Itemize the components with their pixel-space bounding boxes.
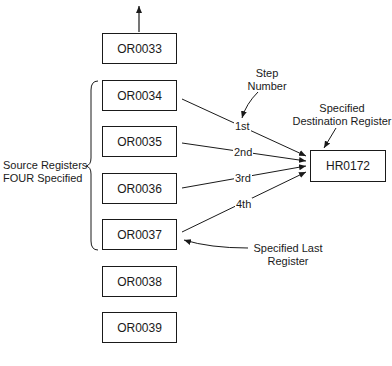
step-label-4: 4th	[235, 198, 252, 210]
source-registers-annotation: Source Registers FOUR Specified	[3, 159, 87, 185]
annotation-line: Destination Register	[292, 115, 392, 128]
step-number-pointer	[242, 92, 258, 118]
register-box-or0037: OR0037	[102, 219, 177, 250]
annotation-line: Register	[248, 255, 328, 268]
register-label: OR0034	[117, 89, 162, 103]
step-label-2: 2nd	[233, 146, 253, 158]
source-brace	[86, 81, 98, 250]
register-box-or0038: OR0038	[102, 266, 177, 297]
annotation-line: FOUR Specified	[3, 172, 87, 185]
register-label: OR0039	[117, 321, 162, 335]
register-label: OR0037	[117, 228, 162, 242]
register-label: OR0033	[117, 42, 162, 56]
annotation-line: Specified Last	[248, 242, 328, 255]
last-register-annotation: Specified Last Register	[248, 242, 328, 268]
last-register-pointer	[184, 240, 248, 248]
step-number-annotation: Step Number	[240, 67, 294, 93]
destination-register-box: HR0172	[310, 150, 386, 182]
register-label: OR0038	[117, 275, 162, 289]
register-box-or0039: OR0039	[102, 312, 177, 343]
destination-annotation: Specified Destination Register	[292, 102, 392, 128]
step-label-1: 1st	[234, 120, 251, 132]
register-transfer-diagram: OR0033 OR0034 OR0035 OR0036 OR0037 OR003…	[0, 0, 392, 366]
destination-register-label: HR0172	[326, 159, 370, 173]
register-box-or0034: OR0034	[102, 80, 177, 111]
annotation-line: Specified	[292, 102, 392, 115]
register-box-or0036: OR0036	[102, 173, 177, 204]
annotation-line: Source Registers	[3, 159, 87, 172]
register-label: OR0036	[117, 182, 162, 196]
annotation-line: Step	[240, 67, 294, 80]
register-box-or0035: OR0035	[102, 126, 177, 157]
step-label-3: 3rd	[234, 172, 252, 184]
register-label: OR0035	[117, 135, 162, 149]
annotation-line: Number	[240, 80, 294, 93]
register-box-or0033: OR0033	[102, 33, 177, 64]
destination-pointer	[324, 128, 336, 148]
